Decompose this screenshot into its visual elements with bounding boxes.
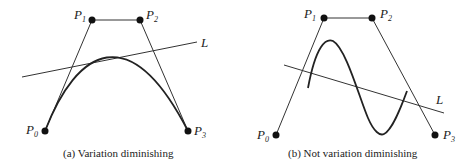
label-p3: P3 <box>193 123 206 140</box>
label-p3: P3 <box>442 127 455 144</box>
caption-b: (b) Not variation diminishing <box>288 147 418 160</box>
label-p1: P1 <box>303 6 316 23</box>
label-p2: P2 <box>145 7 158 24</box>
label-p0: P0 <box>256 127 269 144</box>
diagram-canvas: P0 P1 P2 P3 L (a) Variation diminishing … <box>0 0 471 165</box>
control-point-p3 <box>185 128 192 135</box>
control-point-p2 <box>369 15 376 22</box>
control-polygon <box>45 20 188 131</box>
panel-b: P0 P1 P2 P3 L (b) Not variation diminish… <box>256 6 455 160</box>
control-point-p3 <box>432 132 439 139</box>
control-point-p1 <box>89 17 96 24</box>
caption-a: (a) Variation diminishing <box>63 147 174 160</box>
label-p0: P0 <box>25 122 38 139</box>
line-l <box>22 42 197 77</box>
label-p2: P2 <box>379 6 392 23</box>
label-p1: P1 <box>73 7 86 24</box>
label-line-l: L <box>435 92 443 107</box>
label-line-l: L <box>200 35 208 50</box>
panel-a: P0 P1 P2 P3 L (a) Variation diminishing <box>22 7 208 160</box>
control-polygon <box>276 18 435 135</box>
control-point-p0 <box>42 128 49 135</box>
control-point-p2 <box>137 17 144 24</box>
control-point-p0 <box>273 132 280 139</box>
control-point-p1 <box>321 15 328 22</box>
